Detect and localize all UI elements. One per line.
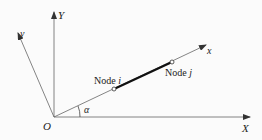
local-x-label: x	[206, 45, 212, 56]
node-i-label: Node i	[94, 75, 121, 86]
angle-label: α	[84, 104, 90, 115]
local-y-axis	[18, 33, 54, 117]
global-x-label: X	[241, 122, 250, 134]
node-j-marker	[170, 60, 174, 64]
global-y-label: Y	[58, 9, 66, 21]
beam-element	[114, 62, 172, 89]
origin-label: O	[43, 120, 51, 132]
node-i-marker	[112, 87, 116, 91]
diagram-canvas: Y y x X O α Node i Node j	[0, 0, 262, 140]
coordinate-diagram: Y y x X O α Node i Node j	[0, 0, 262, 140]
local-y-label: y	[19, 28, 25, 39]
angle-arc	[78, 106, 80, 117]
node-j-label: Node j	[165, 67, 192, 78]
